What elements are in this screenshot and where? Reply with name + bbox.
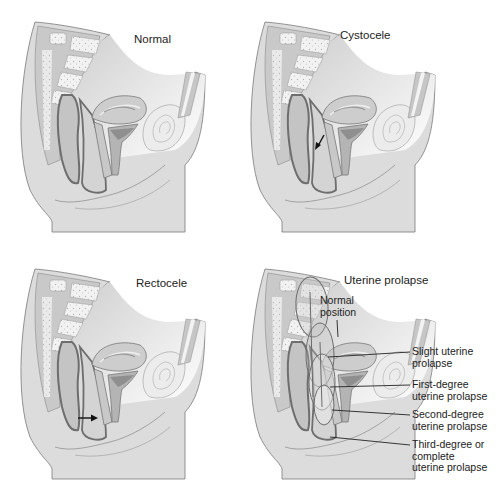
normal-anatomy-illustration [0,0,250,247]
panel-rectocele: Rectocele [0,247,250,494]
panel-uterine-prolapse: Uterine prolapse Normal position Slight … [250,247,499,494]
panel-title-rectocele: Rectocele [136,277,187,289]
label-third-degree-prolapse: Third-degree or complete uterine prolaps… [412,439,487,474]
label-normal-position: Normal position [320,295,356,318]
label-slight-prolapse: Slight uterine prolapse [412,346,473,369]
panel-cystocele: Cystocele [250,0,499,247]
panel-title-uterine-prolapse: Uterine prolapse [344,274,428,286]
panel-title-normal: Normal [134,33,171,45]
panel-normal: Normal [0,0,250,247]
rectocele-anatomy-illustration [0,247,250,494]
label-second-degree-prolapse: Second-degree uterine prolapse [412,409,487,432]
panel-title-cystocele: Cystocele [340,29,391,41]
label-first-degree-prolapse: First-degree uterine prolapse [412,379,487,402]
